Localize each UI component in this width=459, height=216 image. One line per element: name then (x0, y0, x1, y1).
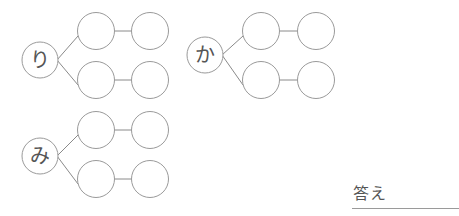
root-kana: み (30, 144, 50, 168)
branch-line (222, 36, 243, 55)
answer-circle[interactable] (78, 161, 115, 198)
branch-line (57, 36, 78, 60)
branch-line (57, 135, 78, 156)
branch-line (222, 55, 243, 85)
tree-group-mi: み (22, 112, 169, 198)
answer-circle[interactable] (132, 62, 169, 99)
answer-circle[interactable] (78, 13, 115, 50)
tree-group-ka: か (187, 13, 335, 99)
answer-circle[interactable] (132, 161, 169, 198)
word-tree-diagram: り か み (0, 0, 459, 216)
answer-circle[interactable] (298, 62, 335, 99)
answer-circle[interactable] (132, 13, 169, 50)
branch-line (57, 60, 78, 85)
answer-circle[interactable] (243, 62, 280, 99)
answer-circle[interactable] (243, 13, 280, 50)
tree-group-ri: り (22, 13, 169, 99)
answer-input-line[interactable] (352, 208, 459, 209)
root-kana: か (195, 43, 215, 67)
root-kana: り (30, 48, 50, 72)
answer-circle[interactable] (78, 62, 115, 99)
branch-line (57, 156, 78, 184)
answer-circle[interactable] (298, 13, 335, 50)
answer-circle[interactable] (78, 112, 115, 149)
answer-label: 答え (353, 180, 387, 204)
answer-circle[interactable] (132, 112, 169, 149)
